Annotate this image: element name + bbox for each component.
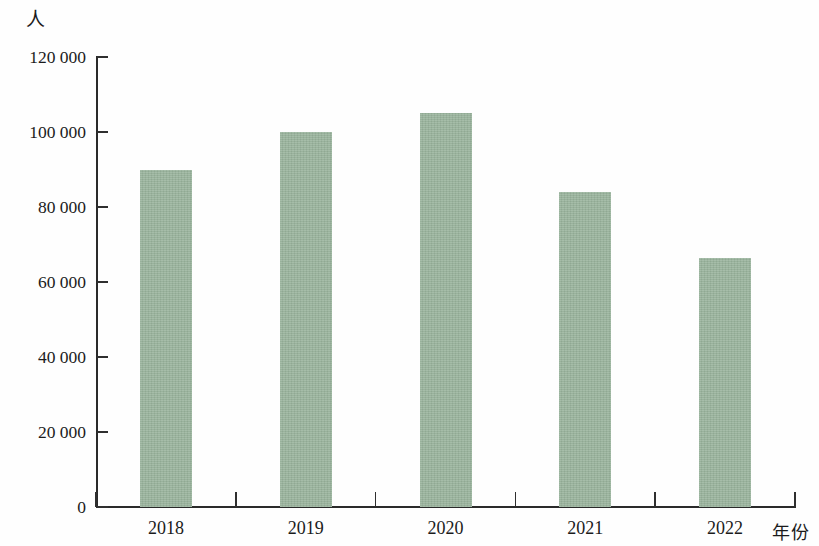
y-axis-tick-label: 0 [0, 497, 86, 518]
x-axis-tick-label: 2018 [121, 518, 211, 539]
y-axis-tick-label: 60 000 [0, 272, 86, 293]
bars-container [96, 57, 795, 507]
y-axis-tick-label: 20 000 [0, 422, 86, 443]
x-axis-tick-label: 2019 [261, 518, 351, 539]
bar [699, 258, 751, 507]
y-axis-tick-labels: 020 00040 00060 00080 000100 000120 000 [0, 0, 86, 546]
y-axis-tick-label: 100 000 [0, 122, 86, 143]
y-axis-tick-label: 40 000 [0, 347, 86, 368]
bar [420, 113, 472, 507]
bar [140, 170, 192, 508]
bar [559, 192, 611, 507]
bar-chart-figure: 人 020 00040 00060 00080 000100 000120 00… [0, 0, 819, 546]
y-axis-tick-label: 120 000 [0, 47, 86, 68]
x-axis-tick-label: 2020 [401, 518, 491, 539]
x-axis-tick-label: 2021 [540, 518, 630, 539]
bar [280, 132, 332, 507]
y-axis-tick-label: 80 000 [0, 197, 86, 218]
x-axis-tick-label: 2022 [680, 518, 770, 539]
x-axis-title: 年份 [772, 518, 809, 544]
